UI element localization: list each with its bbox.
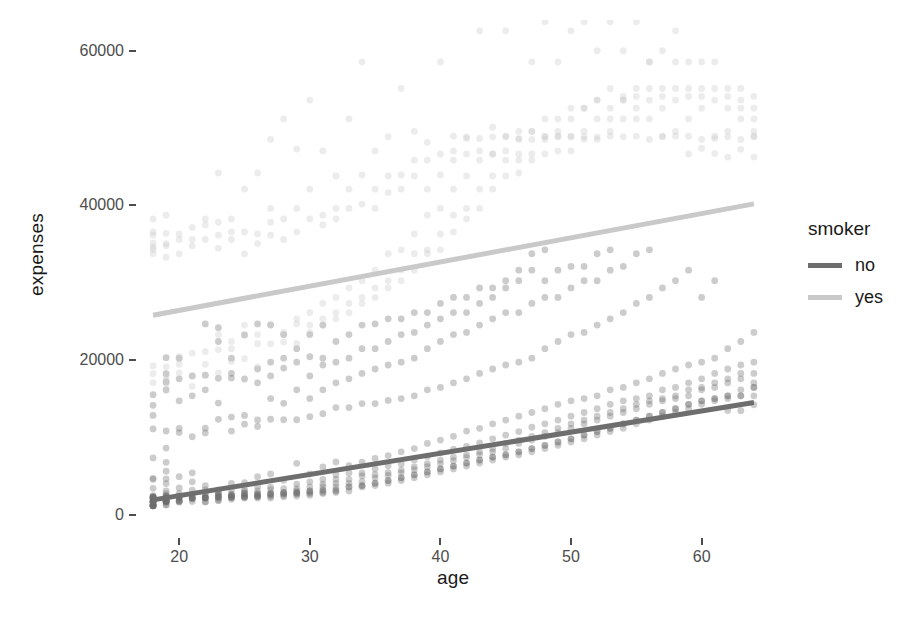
data-point <box>150 246 157 253</box>
data-point <box>555 148 562 155</box>
data-point <box>346 355 353 362</box>
data-point <box>176 250 183 257</box>
data-point <box>176 375 183 382</box>
data-point <box>607 116 614 123</box>
data-point <box>254 364 261 371</box>
data-point <box>502 27 509 34</box>
data-point <box>189 350 196 357</box>
x-tick-mark <box>570 538 572 545</box>
data-point <box>659 47 666 54</box>
data-point <box>750 359 757 366</box>
legend-label: yes <box>855 287 883 308</box>
data-point <box>424 460 431 467</box>
data-point <box>372 480 379 487</box>
data-point <box>398 448 405 455</box>
data-point <box>711 277 718 284</box>
data-point <box>698 384 705 391</box>
data-point <box>672 97 679 104</box>
data-point <box>685 386 692 393</box>
data-point <box>646 59 653 66</box>
data-point <box>280 339 287 346</box>
data-point <box>476 457 483 464</box>
data-point <box>280 365 287 372</box>
data-point <box>555 425 562 432</box>
data-point <box>502 148 509 155</box>
scatter-plot-figure: expenses age 0200004000060000 2030405060… <box>0 0 924 623</box>
data-point <box>489 151 496 158</box>
data-point <box>241 228 248 235</box>
data-point <box>163 240 170 247</box>
data-point <box>646 392 653 399</box>
data-point <box>594 97 601 104</box>
data-point <box>594 47 601 54</box>
y-tick-mark <box>129 514 136 516</box>
data-point <box>685 392 692 399</box>
data-point <box>724 128 731 135</box>
data-point <box>698 294 705 301</box>
data-point <box>293 489 300 496</box>
data-point <box>502 451 509 458</box>
data-point <box>581 417 588 424</box>
data-point <box>568 285 575 292</box>
data-point <box>463 451 470 458</box>
data-point <box>424 139 431 146</box>
data-point <box>424 440 431 447</box>
data-point <box>163 387 170 394</box>
data-point <box>398 315 405 322</box>
data-point <box>633 379 640 386</box>
data-point <box>607 246 614 253</box>
data-point <box>306 478 313 485</box>
data-point <box>306 373 313 380</box>
x-tick-label: 50 <box>562 548 580 566</box>
data-point <box>333 338 340 345</box>
data-point <box>542 277 549 284</box>
data-point <box>685 59 692 66</box>
data-point <box>333 205 340 212</box>
data-point <box>515 170 522 177</box>
data-point <box>359 201 366 208</box>
data-point <box>215 416 222 423</box>
data-point <box>202 361 209 368</box>
data-point <box>437 151 444 158</box>
x-tick-label: 60 <box>693 548 711 566</box>
x-axis-title: age <box>437 567 469 589</box>
data-point <box>398 172 405 179</box>
legend-item-yes[interactable]: yes <box>808 286 918 308</box>
data-point <box>620 384 627 391</box>
data-point <box>398 474 405 481</box>
legend-key-swatch <box>808 263 842 268</box>
data-point <box>319 464 326 471</box>
data-point <box>424 309 431 316</box>
data-point <box>241 250 248 257</box>
data-point <box>228 493 235 500</box>
data-point <box>450 309 457 316</box>
y-tick-mark <box>129 50 136 52</box>
legend-item-no[interactable]: no <box>808 254 918 276</box>
data-point <box>646 85 653 92</box>
data-point <box>672 405 679 412</box>
data-point <box>411 128 418 135</box>
data-point <box>385 285 392 292</box>
data-point <box>333 379 340 386</box>
data-point <box>163 475 170 482</box>
data-point <box>228 338 235 345</box>
data-point <box>359 470 366 477</box>
data-point <box>607 401 614 408</box>
data-point <box>189 383 196 390</box>
data-point <box>280 329 287 336</box>
data-point <box>737 407 744 414</box>
data-point <box>267 490 274 497</box>
data-point <box>489 420 496 427</box>
data-point <box>215 346 222 353</box>
data-point <box>463 329 470 336</box>
data-point <box>189 236 196 243</box>
data-point <box>581 395 588 402</box>
data-point <box>555 439 562 446</box>
data-point <box>685 93 692 100</box>
data-point <box>372 400 379 407</box>
data-point <box>489 315 496 322</box>
data-point <box>319 212 326 219</box>
data-point <box>241 412 248 419</box>
data-point <box>685 401 692 408</box>
data-point <box>254 490 261 497</box>
